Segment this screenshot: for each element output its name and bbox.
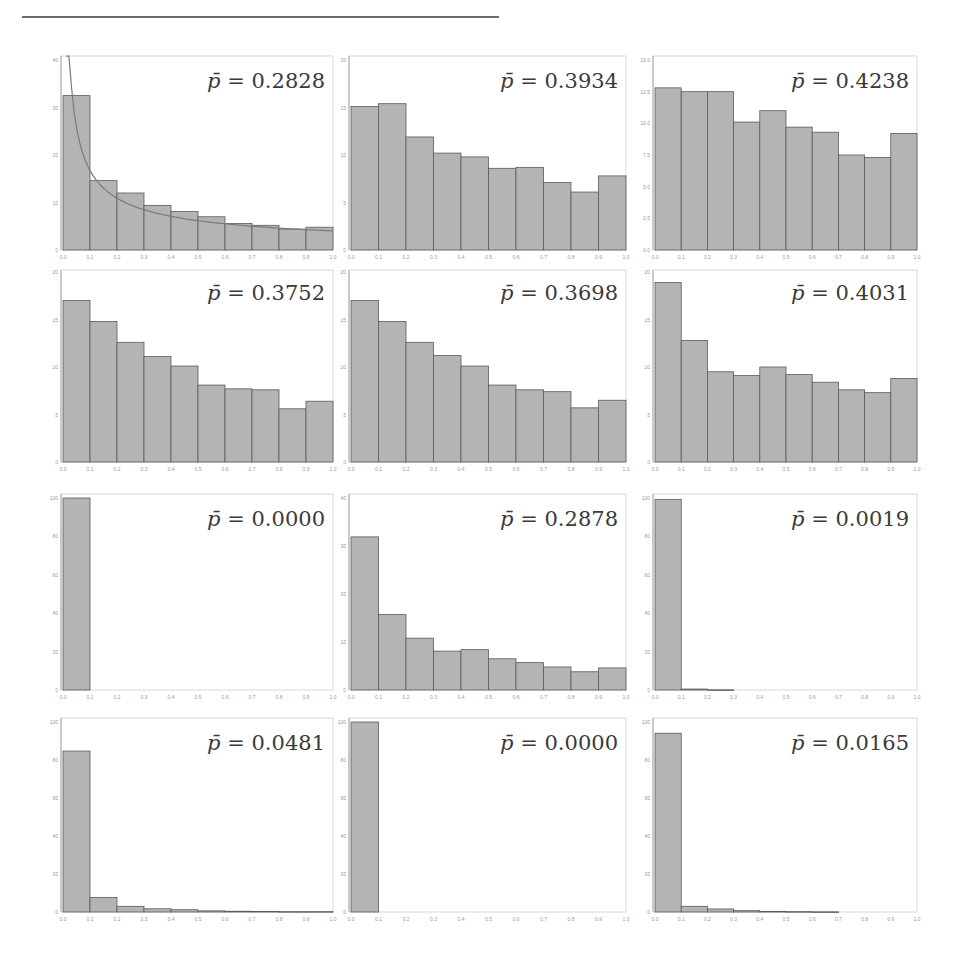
x-tick-label: 0.8 [861,916,868,922]
x-tick-label: 0.0 [652,916,659,922]
y-tick-label: 40 [644,833,650,839]
x-tick-label: 0.1 [678,916,685,922]
x-tick-label: 0.5 [783,916,790,922]
histogram-chart: 0204060801000.00.10.20.30.40.50.60.70.80… [0,0,967,966]
histogram-bar [681,906,707,912]
x-tick-label: 0.2 [704,916,711,922]
histogram-bar [760,911,786,912]
y-tick-label: 0 [647,909,650,915]
x-tick-label: 0.7 [835,916,842,922]
x-tick-label: 0.3 [730,916,737,922]
histogram-grid: 0102030400.00.10.20.30.40.50.60.70.80.91… [0,0,967,966]
histogram-bar [786,912,812,913]
x-tick-label: 1.0 [914,916,921,922]
p-bar-annotation: p̄ = 0.0165 [791,731,909,755]
histogram-bar [655,733,681,912]
x-tick-label: 0.4 [756,916,763,922]
x-tick-label: 0.6 [809,916,816,922]
x-tick-label: 0.9 [887,916,894,922]
histogram-bar [707,909,733,912]
y-tick-label: 20 [644,871,650,877]
y-tick-label: 80 [644,757,650,763]
histogram-bar [812,912,838,913]
histogram-bar [734,911,760,912]
y-tick-label: 100 [642,719,651,725]
y-tick-label: 60 [644,795,650,801]
